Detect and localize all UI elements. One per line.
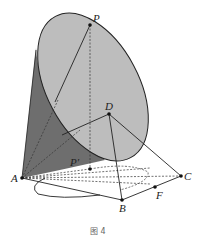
point-C (179, 174, 183, 178)
point-D (107, 112, 111, 116)
point-P (88, 23, 92, 27)
label-F: F (155, 189, 163, 201)
label-P-prime: P′ (69, 156, 80, 168)
label-B: B (119, 202, 126, 214)
point-P-prime (88, 167, 92, 171)
point-A (20, 176, 24, 180)
label-C: C (184, 170, 192, 182)
label-P: P (92, 12, 100, 24)
figure-caption: 图 4 (90, 227, 106, 236)
label-D: D (104, 100, 113, 112)
geometry-figure: P D A P′ B C F 图 4 (0, 0, 197, 236)
label-A: A (10, 172, 18, 184)
